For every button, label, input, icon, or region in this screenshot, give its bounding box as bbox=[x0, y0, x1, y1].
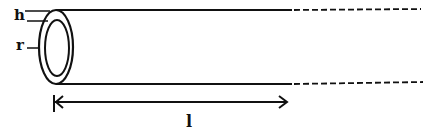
length-label: l bbox=[186, 114, 192, 130]
thickness-label: h bbox=[14, 8, 25, 23]
bottom-edge-dashed bbox=[294, 82, 423, 84]
tube-diagram: h r l bbox=[0, 0, 435, 137]
inner-end-ellipse bbox=[45, 20, 69, 76]
radius-label: r bbox=[16, 38, 24, 53]
tube-drawing bbox=[0, 0, 435, 137]
top-edge-dashed bbox=[294, 9, 421, 10]
